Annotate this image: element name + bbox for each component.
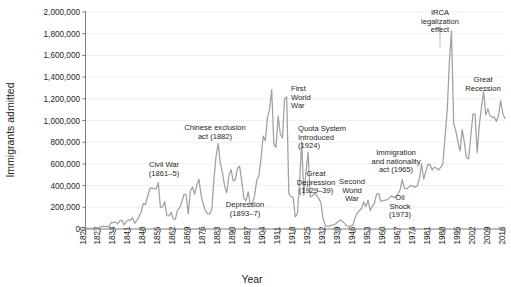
annotation-line: (1929–39) bbox=[299, 186, 334, 195]
y-tick-label: 200,000 bbox=[50, 203, 80, 212]
y-tick-label: 600,000 bbox=[50, 160, 80, 169]
annotation-line: (1973) bbox=[389, 210, 411, 219]
y-tick-label: 1,000,000 bbox=[44, 117, 81, 126]
y-tick-label: 1,400,000 bbox=[44, 73, 81, 82]
y-tick-label: 400,000 bbox=[50, 182, 80, 191]
annotation-line: War bbox=[345, 194, 359, 203]
annotation-line: (1924) bbox=[298, 141, 320, 150]
chart-canvas: 0200,000400,000600,000800,0001,000,0001,… bbox=[0, 0, 511, 287]
annotation-line: act (1965) bbox=[379, 165, 414, 174]
y-tick-label: 1,600,000 bbox=[44, 51, 81, 60]
y-tick-label: 1,200,000 bbox=[44, 95, 81, 104]
annotation-line: War bbox=[291, 101, 305, 110]
annotation-civil-war: Civil War(1861–5) bbox=[149, 160, 180, 178]
immigration-line-chart: 0200,000400,000600,000800,0001,000,0001,… bbox=[0, 0, 511, 287]
annotation-line: Recession bbox=[465, 84, 500, 93]
annotation-line bbox=[214, 140, 216, 149]
y-tick-label: 2,000,000 bbox=[44, 8, 81, 17]
annotation-line: (1893–7) bbox=[230, 209, 261, 218]
annotation-line: effect bbox=[431, 25, 450, 34]
x-axis-title: Year bbox=[241, 273, 263, 285]
annotation-depression-1893: Depression(1893–7) bbox=[226, 200, 264, 218]
y-tick-label: 800,000 bbox=[50, 138, 80, 147]
y-axis-title: Immigrants admitted bbox=[4, 82, 16, 177]
y-tick-label: 1,800,000 bbox=[44, 30, 81, 39]
annotation-line: (1861–5) bbox=[149, 169, 180, 178]
